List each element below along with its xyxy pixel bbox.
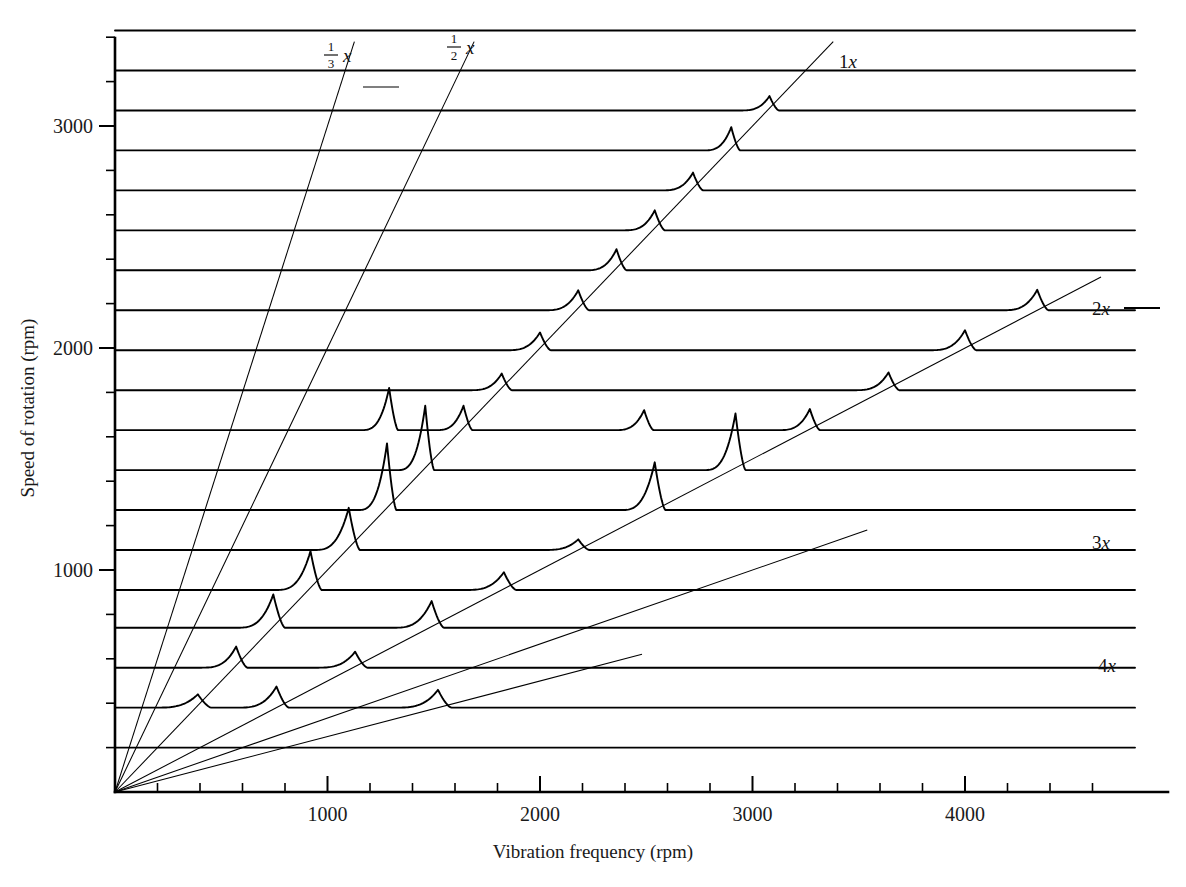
spectrum-trace — [115, 96, 1135, 110]
spectrum-trace — [115, 173, 1135, 191]
spectrum-trace — [115, 551, 1135, 590]
spectrum-trace — [115, 210, 1135, 230]
trace-group — [115, 31, 1135, 748]
order-line-3 — [115, 530, 867, 792]
order-label-1x: 1x — [839, 51, 858, 72]
spectrum-trace — [115, 647, 1135, 668]
order-line-4 — [115, 654, 642, 792]
spectrum-trace — [115, 406, 1135, 470]
spectrum-trace — [115, 594, 1135, 627]
y-tick-label-1000: 1000 — [53, 559, 93, 581]
order-line-2 — [115, 277, 1101, 792]
order-label-2x: 2x — [1092, 298, 1111, 319]
spectrum-trace — [115, 127, 1135, 150]
order-label-third-x-symbol: x — [342, 45, 352, 66]
order-label-half-x-numerator: 1 — [451, 31, 458, 46]
y-tick-label-3000: 3000 — [53, 115, 93, 137]
y-tick-label-2000: 2000 — [53, 337, 93, 359]
spectrum-trace — [115, 443, 1135, 510]
order-line-0.3333 — [115, 42, 354, 792]
order-label-4x: 4x — [1098, 655, 1117, 676]
x-axis-title: Vibration frequency (rpm) — [493, 841, 693, 863]
x-tick-label-2000: 2000 — [520, 803, 560, 825]
order-label-half-x-denominator: 2 — [451, 48, 458, 63]
order-label-3x: 3x — [1092, 532, 1111, 553]
spectrum-trace — [115, 388, 1135, 430]
order-line-group — [115, 42, 1101, 792]
waterfall-chart: 1000200030004000100020003000 Vibration f… — [0, 0, 1186, 887]
x-tick-label-4000: 4000 — [945, 803, 985, 825]
spectrum-trace — [115, 290, 1135, 310]
order-line-0.5 — [115, 42, 474, 792]
y-axis-title: Speed of rotation (rpm) — [17, 319, 39, 498]
order-label-half-x-symbol: x — [465, 37, 475, 58]
order-label-third-x-denominator: 3 — [328, 56, 335, 71]
order-label-third-x-numerator: 1 — [328, 39, 335, 54]
x-tick-label-1000: 1000 — [308, 803, 348, 825]
spectrum-trace — [115, 330, 1135, 350]
order-label-group: 13x12x1x2x3x4x — [324, 31, 1160, 676]
figure-root: 1000200030004000100020003000 Vibration f… — [0, 0, 1186, 887]
order-label-half-x: 12x — [447, 31, 475, 63]
spectrum-trace — [115, 508, 1135, 550]
x-tick-label-3000: 3000 — [733, 803, 773, 825]
order-line-1 — [115, 42, 833, 792]
spectrum-trace — [115, 687, 1135, 708]
spectrum-trace — [115, 372, 1135, 390]
order-label-third-x: 13x — [324, 39, 352, 71]
